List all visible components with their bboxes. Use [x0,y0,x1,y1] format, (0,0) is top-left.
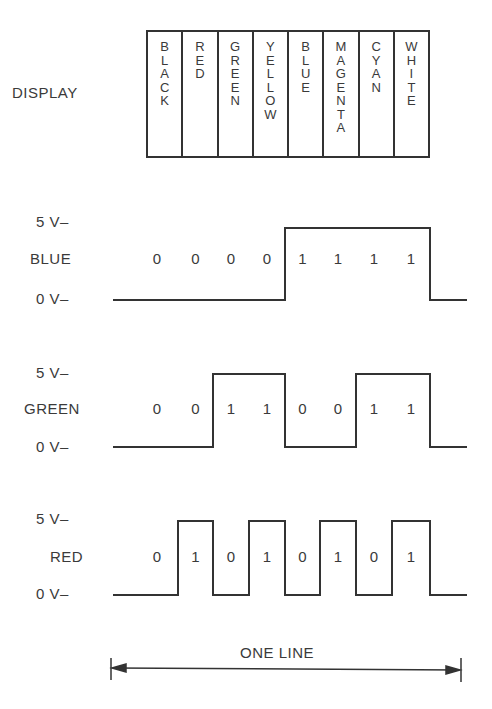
one-line-span-arrow [111,658,461,682]
blue-bit-value: 1 [407,250,415,267]
one-line-label: ONE LINE [240,644,314,661]
blue-bit-value: 0 [263,250,271,267]
red-bit-value: 0 [227,548,235,565]
red-bit-value: 0 [153,548,161,565]
red-bit-value: 1 [334,548,342,565]
blue-bit-value: 0 [153,250,161,267]
blue-bit-value: 1 [370,250,378,267]
waveform-diagram [0,0,492,709]
blue-bit-value: 0 [191,250,199,267]
green-bit-value: 0 [153,400,161,417]
red-bit-value: 1 [191,548,199,565]
red-bit-value: 0 [298,548,306,565]
green-bit-value: 1 [263,400,271,417]
green-bit-value: 1 [227,400,235,417]
green-bit-value: 0 [298,400,306,417]
blue-bit-value: 1 [334,250,342,267]
red-bit-value: 0 [370,548,378,565]
red-bit-value: 1 [263,548,271,565]
green-bit-value: 0 [334,400,342,417]
green-bit-value: 0 [191,400,199,417]
green-bit-value: 1 [370,400,378,417]
blue-bit-value: 0 [227,250,235,267]
green-bit-value: 1 [407,400,415,417]
red-bit-value: 1 [407,548,415,565]
blue-bit-value: 1 [298,250,306,267]
